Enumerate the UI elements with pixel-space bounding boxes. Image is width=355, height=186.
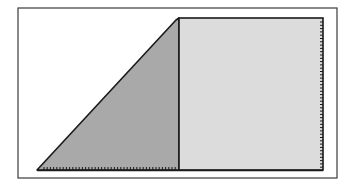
geometric-figure <box>0 0 355 186</box>
rectangle <box>179 18 323 170</box>
diagram-canvas <box>0 0 355 186</box>
right-triangle <box>37 18 179 170</box>
